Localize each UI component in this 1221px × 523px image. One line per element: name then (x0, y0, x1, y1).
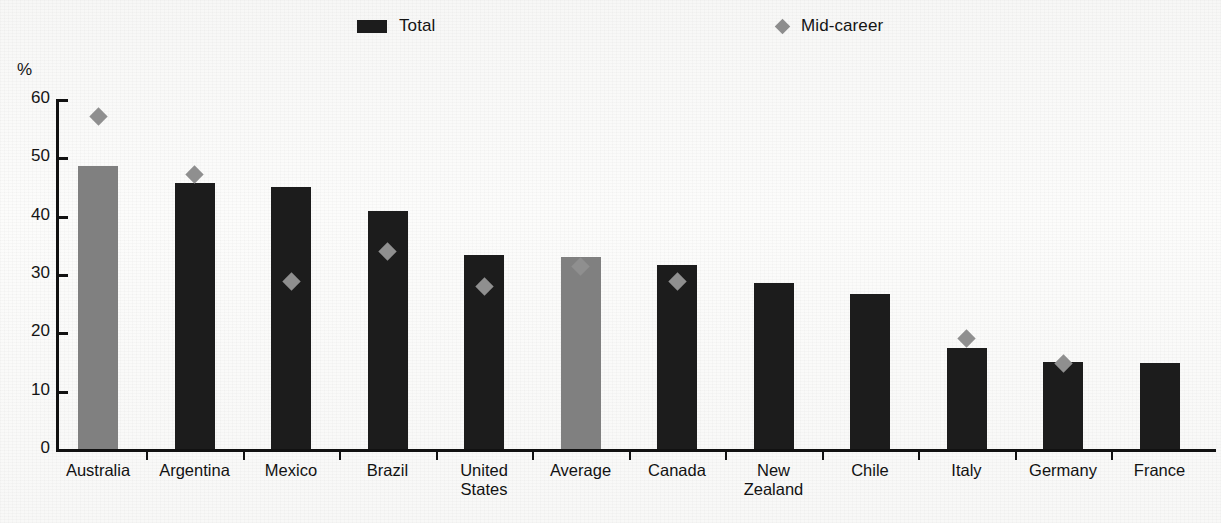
x-axis-category-label: Average (532, 461, 629, 480)
legend-swatch-total-icon (357, 20, 387, 33)
mid-career-marker (957, 329, 975, 347)
x-axis-tick (918, 452, 920, 460)
x-axis-category-label: Chile (822, 461, 919, 480)
x-axis-category-label: Mexico (243, 461, 340, 480)
y-axis-tick-label: 20 (31, 321, 50, 341)
bar (754, 283, 794, 449)
y-axis-tick: 30 (59, 274, 68, 277)
bar (1140, 363, 1180, 449)
x-axis-category-label: United States (436, 461, 533, 499)
y-axis-tick-label: 40 (31, 205, 50, 225)
mid-career-marker (89, 107, 107, 125)
y-axis-tick-label: 10 (31, 380, 50, 400)
legend-label-total: Total (399, 16, 435, 36)
x-axis-tick (629, 452, 631, 460)
x-axis-tick (339, 452, 341, 460)
x-axis-tick (822, 452, 824, 460)
legend-item-mid-career[interactable]: Mid-career (775, 12, 883, 40)
y-axis-tick: 40 (59, 216, 68, 219)
mid-career-marker (185, 165, 203, 183)
x-axis-category-label: Australia (50, 461, 147, 480)
legend-label-mid-career: Mid-career (801, 16, 883, 36)
x-axis-tick (725, 452, 727, 460)
y-axis-unit-label: % (17, 60, 32, 80)
y-axis-tick: 10 (59, 391, 68, 394)
bar (561, 257, 601, 449)
bar (175, 183, 215, 449)
x-axis-tick (1111, 452, 1113, 460)
y-axis-tick-label: 60 (31, 88, 50, 108)
bar (657, 265, 697, 449)
plot-area: 6050403020100 AustraliaArgentinaMexicoBr… (56, 99, 1216, 452)
bar (271, 187, 311, 450)
x-axis-category-label: New Zealand (725, 461, 822, 499)
y-axis-tick-label: 30 (31, 263, 50, 283)
legend-item-total[interactable]: Total (357, 12, 435, 40)
legend-swatch-mid-career-icon (775, 18, 791, 34)
bar (850, 294, 890, 449)
bar (947, 348, 987, 450)
y-axis-tick-label: 50 (31, 146, 50, 166)
y-axis-tick: 50 (59, 157, 68, 160)
x-axis-line (56, 449, 1216, 452)
x-axis-category-label: Brazil (339, 461, 436, 480)
y-axis-tick: 20 (59, 332, 68, 335)
x-axis-tick (436, 452, 438, 460)
y-axis-tick: 60 (59, 99, 68, 102)
bar (78, 166, 118, 450)
y-axis-tick: 0 (59, 449, 68, 452)
x-axis-category-label: France (1111, 461, 1208, 480)
x-axis-category-label: Argentina (146, 461, 243, 480)
chart-legend: Total Mid-career (0, 12, 1221, 40)
x-axis-tick (532, 452, 534, 460)
bar (1043, 362, 1083, 449)
x-axis-tick (243, 452, 245, 460)
x-axis-category-label: Italy (918, 461, 1015, 480)
chart-container: Total Mid-career % 6050403020100 Austral… (0, 0, 1221, 523)
y-axis-tick-label: 0 (41, 438, 50, 458)
x-axis-category-label: Germany (1015, 461, 1112, 480)
x-axis-category-label: Canada (629, 461, 726, 480)
x-axis-tick (146, 452, 148, 460)
x-axis-tick (1015, 452, 1017, 460)
